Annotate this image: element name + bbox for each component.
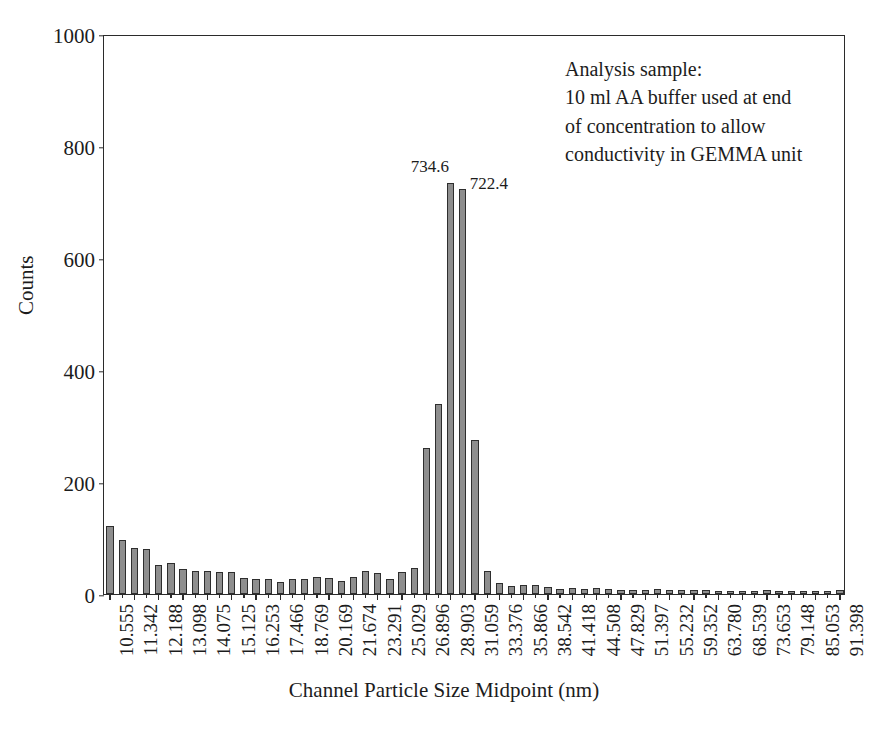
bar	[179, 569, 186, 594]
bar	[106, 526, 113, 594]
x-tick-mark	[791, 594, 792, 600]
bar	[155, 565, 162, 594]
x-tick-mark-minor	[122, 594, 123, 598]
x-tick-mark	[426, 594, 427, 600]
x-tick-label: 63.780	[725, 604, 744, 656]
annotation-text: Analysis sample:10 ml AA buffer used at …	[565, 55, 802, 169]
bar	[252, 579, 259, 594]
bar	[484, 571, 491, 594]
x-tick-mark-minor	[754, 594, 755, 598]
x-tick-mark-minor	[268, 594, 269, 598]
x-tick-mark	[377, 594, 378, 600]
x-tick-mark	[645, 594, 646, 600]
bar	[374, 573, 381, 594]
bar	[447, 183, 454, 594]
bar	[216, 572, 223, 594]
histogram-figure: Counts 02004006008001000 10.55511.34212.…	[0, 0, 888, 737]
x-tick-mark	[255, 594, 256, 600]
x-tick-label: 47.829	[628, 604, 647, 656]
x-tick-label: 15.125	[239, 604, 258, 656]
x-tick-mark-minor	[146, 594, 147, 598]
bar	[350, 577, 357, 594]
bar	[204, 571, 211, 594]
x-tick-label: 12.188	[166, 604, 185, 656]
y-tick-label: 600	[64, 250, 105, 271]
bar	[435, 404, 442, 594]
x-tick-label: 23.291	[385, 604, 404, 656]
bar	[240, 578, 247, 594]
bar	[459, 189, 466, 594]
bar-value-label: 722.4	[470, 175, 508, 192]
x-tick-label: 35.866	[531, 604, 550, 656]
x-tick-label: 14.075	[214, 604, 233, 656]
x-tick-mark-minor	[827, 594, 828, 598]
x-tick-mark-minor	[316, 594, 317, 598]
x-tick-label: 73.653	[774, 604, 793, 656]
x-tick-mark	[839, 594, 840, 600]
x-tick-mark-minor	[778, 594, 779, 598]
x-tick-mark-minor	[559, 594, 560, 598]
x-tick-mark	[620, 594, 621, 600]
x-tick-label: 85.053	[823, 604, 842, 656]
bar	[289, 579, 296, 594]
bar	[544, 587, 551, 594]
x-tick-label: 28.903	[458, 604, 477, 656]
bar	[398, 572, 405, 594]
bar	[520, 585, 527, 594]
x-tick-mark-minor	[438, 594, 439, 598]
x-tick-label: 38.542	[555, 604, 574, 656]
x-tick-mark-minor	[414, 594, 415, 598]
x-tick-mark	[523, 594, 524, 600]
y-axis-title: Counts	[14, 255, 39, 315]
x-tick-mark	[718, 594, 719, 600]
bar	[338, 581, 345, 594]
x-tick-mark-minor	[730, 594, 731, 598]
bar	[131, 548, 138, 594]
x-tick-mark	[207, 594, 208, 600]
x-tick-mark-minor	[487, 594, 488, 598]
x-tick-mark	[742, 594, 743, 600]
x-tick-mark	[231, 594, 232, 600]
y-tick-mark	[99, 595, 104, 596]
annotation-line: Analysis sample:	[565, 55, 802, 83]
x-tick-mark	[766, 594, 767, 600]
x-tick-label: 16.253	[263, 604, 282, 656]
x-tick-mark	[596, 594, 597, 600]
x-tick-mark-minor	[632, 594, 633, 598]
annotation-line: conductivity in GEMMA unit	[565, 140, 802, 168]
x-tick-mark	[693, 594, 694, 600]
x-tick-label: 17.466	[287, 604, 306, 656]
x-tick-mark-minor	[170, 594, 171, 598]
x-tick-mark-minor	[681, 594, 682, 598]
x-tick-mark-minor	[341, 594, 342, 598]
x-tick-label: 44.508	[604, 604, 623, 656]
x-tick-mark-minor	[584, 594, 585, 598]
x-tick-mark	[450, 594, 451, 600]
x-tick-mark-minor	[292, 594, 293, 598]
x-tick-mark	[182, 594, 183, 600]
x-tick-mark	[547, 594, 548, 600]
bar	[313, 577, 320, 594]
x-tick-mark-minor	[195, 594, 196, 598]
x-tick-mark-minor	[219, 594, 220, 598]
x-axis-title: Channel Particle Size Midpoint (nm)	[0, 678, 888, 703]
x-tick-mark-minor	[657, 594, 658, 598]
x-tick-label: 33.376	[506, 604, 525, 656]
x-tick-mark-minor	[608, 594, 609, 598]
bar	[228, 572, 235, 594]
bar	[386, 579, 393, 594]
x-tick-label: 31.059	[482, 604, 501, 656]
y-tick-label: 800	[64, 138, 105, 159]
bar	[496, 583, 503, 594]
x-tick-mark	[815, 594, 816, 600]
x-tick-mark-minor	[243, 594, 244, 598]
y-tick-label: 200	[64, 474, 105, 495]
x-tick-mark-minor	[511, 594, 512, 598]
x-tick-mark	[353, 594, 354, 600]
annotation-line: of concentration to allow	[565, 112, 802, 140]
x-tick-mark	[280, 594, 281, 600]
x-tick-mark-minor	[535, 594, 536, 598]
bar	[301, 579, 308, 594]
x-tick-label: 20.169	[336, 604, 355, 656]
x-tick-label: 91.398	[847, 604, 866, 656]
